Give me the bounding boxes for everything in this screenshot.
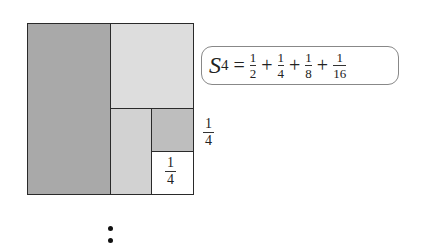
region-quarter — [110, 23, 194, 109]
term-eighth: 18 — [305, 51, 312, 80]
sum-symbol: S — [209, 52, 221, 79]
numerator: 1 — [336, 51, 343, 64]
term-sixteenth: 116 — [333, 51, 346, 80]
term-quarter: 14 — [278, 51, 285, 80]
plus-sign: + — [317, 54, 328, 77]
numerator: 1 — [165, 156, 176, 171]
region-half — [27, 23, 111, 195]
side-fraction-label: 1 4 — [203, 117, 214, 148]
term-half: 12 — [250, 51, 257, 80]
continuation-dot-2 — [108, 238, 113, 243]
region-eighth — [110, 108, 152, 195]
denominator: 4 — [278, 67, 285, 80]
partial-sum-formula: S4 = 12 + 14 + 18 + 116 — [201, 46, 399, 85]
denominator: 2 — [250, 67, 257, 80]
numerator: 1 — [250, 51, 257, 64]
numerator: 1 — [203, 117, 214, 132]
continuation-dot-1 — [108, 226, 113, 231]
inner-fraction-label: 1 4 — [165, 156, 176, 187]
region-sixteenth — [151, 108, 194, 152]
numerator: 1 — [278, 51, 285, 64]
plus-sign: + — [289, 54, 300, 77]
equals-sign: = — [234, 54, 245, 77]
denominator: 4 — [205, 133, 212, 148]
denominator: 8 — [305, 67, 312, 80]
numerator: 1 — [305, 51, 312, 64]
plus-sign: + — [261, 54, 272, 77]
sum-subscript: 4 — [221, 57, 229, 74]
denominator: 4 — [167, 172, 174, 187]
denominator: 16 — [333, 67, 346, 80]
